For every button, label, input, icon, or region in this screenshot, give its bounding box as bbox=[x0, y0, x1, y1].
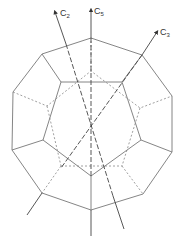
c5-label: C5 bbox=[94, 6, 105, 17]
c3-label: C3 bbox=[160, 27, 171, 38]
c2-label: C2 bbox=[60, 8, 71, 19]
dodecahedron-symmetry-diagram: C2 C5 C3 bbox=[0, 0, 181, 249]
c2-axis bbox=[55, 12, 124, 229]
c3-axis bbox=[27, 32, 157, 215]
